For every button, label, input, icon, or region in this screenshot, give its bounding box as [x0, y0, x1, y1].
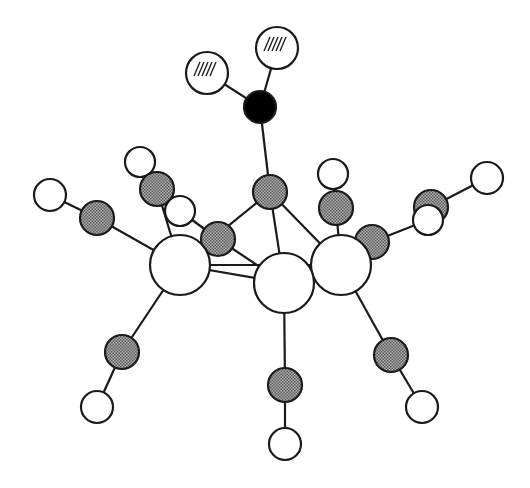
white-atom-o_r1: [318, 159, 348, 189]
metal-atom-m2: [254, 253, 314, 313]
gray-atom-c_b3: [374, 338, 408, 372]
white-atom-o_l2: [34, 179, 66, 211]
white-atom-o_b1: [81, 391, 113, 423]
gray-atom-c_l2: [80, 201, 114, 235]
white-atom-o_l3: [165, 196, 195, 226]
gray-atom-c_b1: [105, 335, 139, 369]
metal-atom-m1: [150, 235, 210, 295]
metal-atom-m3: [311, 235, 371, 295]
gray-atom-c_top: [253, 175, 287, 209]
white-atom-o_r3: [413, 205, 443, 235]
gray-atom-c_b2: [268, 368, 302, 402]
white-atom-o_r3b: [471, 162, 503, 194]
white-atom-o_b2: [269, 428, 301, 460]
black-atom-n1: [244, 91, 276, 123]
molecule-svg: [0, 0, 530, 488]
atoms-layer: [34, 27, 503, 460]
gray-atom-c_r1: [319, 191, 353, 225]
white-atom-o_b3: [406, 391, 438, 423]
molecule-diagram: [0, 0, 530, 488]
